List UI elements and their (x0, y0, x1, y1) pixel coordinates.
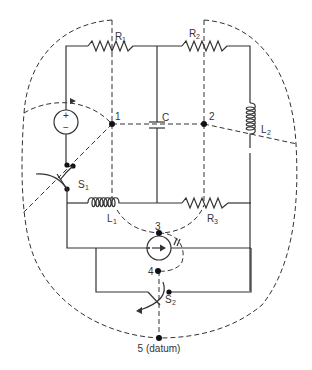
arrow-right-icon (160, 245, 166, 252)
arrow-left-icon (136, 307, 142, 314)
node-1-label: 1 (115, 111, 121, 122)
label-l1-sub: 1 (113, 218, 117, 225)
circuit-diagram: + − (0, 0, 312, 370)
label-c: C (162, 112, 169, 123)
node-3-label: 3 (155, 221, 161, 232)
node-5-label: 5 (datum) (138, 343, 181, 354)
plus-sign: + (63, 110, 69, 121)
node-4 (155, 268, 161, 274)
inductor-l1 (88, 198, 138, 207)
label-r1-sub: 1 (122, 36, 126, 43)
resistor-r1 (88, 41, 133, 51)
minus-sign: − (63, 122, 69, 133)
label-r2-sub: 2 (196, 33, 200, 40)
node-4-label: 4 (148, 266, 154, 277)
circuit-wires (66, 46, 251, 292)
node-2 (201, 121, 207, 127)
label-s2: S (165, 294, 172, 305)
inductor-l2 (246, 103, 255, 148)
label-r3-sub: 3 (214, 218, 218, 225)
current-source (147, 236, 171, 260)
voltage-source: + − (54, 110, 78, 134)
node-5 (156, 335, 162, 341)
label-s2-sub: 2 (172, 299, 176, 306)
resistor-r3 (182, 198, 228, 208)
node-2-label: 2 (209, 111, 215, 122)
capacitor-glyph-crossing (174, 238, 180, 246)
labels: R 1 R 2 R 3 L 1 L 2 C S 1 S 2 1 2 3 4 5 … (78, 28, 271, 354)
label-s1: S (78, 179, 85, 190)
label-s1-sub: 1 (85, 184, 89, 191)
cutset-contours (22, 20, 297, 338)
label-l2-sub: 2 (267, 129, 271, 136)
